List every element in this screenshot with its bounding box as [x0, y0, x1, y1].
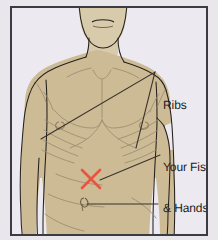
label-fist-line-1: Your Fist	[163, 161, 208, 175]
label-navel: Navel	[170, 208, 200, 236]
label-navel-text: Navel	[170, 235, 200, 236]
figure-root: Ribs Your Fist & Hands Should Be Here Na…	[0, 0, 218, 240]
label-ribs-text: Ribs	[163, 99, 187, 113]
diagram-frame: Ribs Your Fist & Hands Should Be Here Na…	[10, 6, 208, 236]
label-ribs: Ribs	[163, 72, 187, 140]
